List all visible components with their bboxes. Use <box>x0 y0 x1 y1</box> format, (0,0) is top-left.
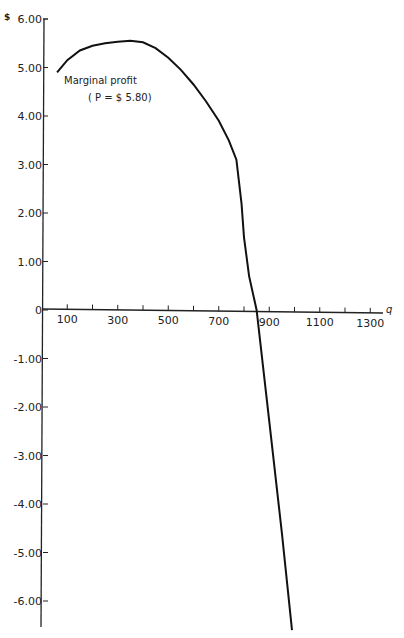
y-tick-label: -2.00 <box>14 401 42 414</box>
y-tick-label: -5.00 <box>14 547 42 560</box>
y-tick-label: 1.00 <box>18 256 43 269</box>
y-tick-label: -3.00 <box>14 450 42 463</box>
annotation-marginal-profit: Marginal profit <box>64 75 137 86</box>
y-tick-label: 6.00 <box>18 13 43 26</box>
annotation-price: ( P = $ 5.80) <box>88 92 152 103</box>
y-tick-label: 4.00 <box>18 110 43 123</box>
y-tick-label: 2.00 <box>18 207 43 220</box>
y-tick-label: 3.00 <box>18 159 43 172</box>
x-tick-label: 500 <box>158 314 179 327</box>
x-tick-label: 700 <box>208 315 229 328</box>
marginal-profit-chart: 6.005.004.003.002.001.000-1.00-2.00-3.00… <box>0 0 404 638</box>
x-tick-label: 300 <box>107 314 128 327</box>
y-tick-label: 5.00 <box>18 62 43 75</box>
y-tick-label: -6.00 <box>14 595 42 608</box>
x-tick-label: 100 <box>57 313 78 326</box>
x-tick-label: 1300 <box>356 317 384 330</box>
x-tick-label: 1100 <box>306 316 334 329</box>
y-axis-unit-label: $ <box>4 12 10 22</box>
x-axis <box>42 309 383 313</box>
marginal-profit-curve <box>57 41 292 630</box>
y-tick-label: 0 <box>35 304 42 317</box>
x-axis-label: q <box>386 304 392 315</box>
y-tick-label: -1.00 <box>14 353 42 366</box>
x-tick-label: 900 <box>259 316 280 329</box>
y-tick-label: -4.00 <box>14 498 42 511</box>
